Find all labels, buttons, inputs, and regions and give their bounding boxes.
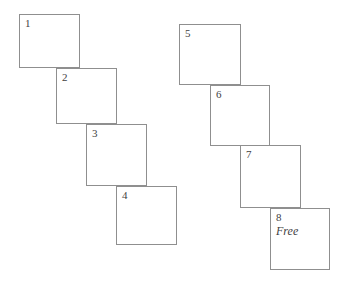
figure-canvas: 12345678Free: [0, 0, 348, 288]
square-4: 4: [116, 186, 177, 245]
square-2: 2: [56, 68, 117, 124]
square-number-label: 8: [276, 211, 329, 224]
square-number-label: 5: [185, 27, 240, 40]
square-6: 6: [210, 85, 270, 146]
square-7: 7: [240, 145, 301, 208]
square-number-label: 4: [122, 189, 176, 202]
square-free-label: Free: [276, 224, 329, 238]
square-5: 5: [179, 24, 241, 85]
square-number-label: 7: [246, 148, 300, 161]
square-3: 3: [86, 124, 147, 186]
square-8: 8Free: [270, 208, 330, 270]
square-number-label: 6: [216, 88, 269, 101]
square-number-label: 2: [62, 71, 116, 84]
square-number-label: 1: [25, 17, 79, 30]
square-number-label: 3: [92, 127, 146, 140]
square-1: 1: [19, 14, 80, 68]
